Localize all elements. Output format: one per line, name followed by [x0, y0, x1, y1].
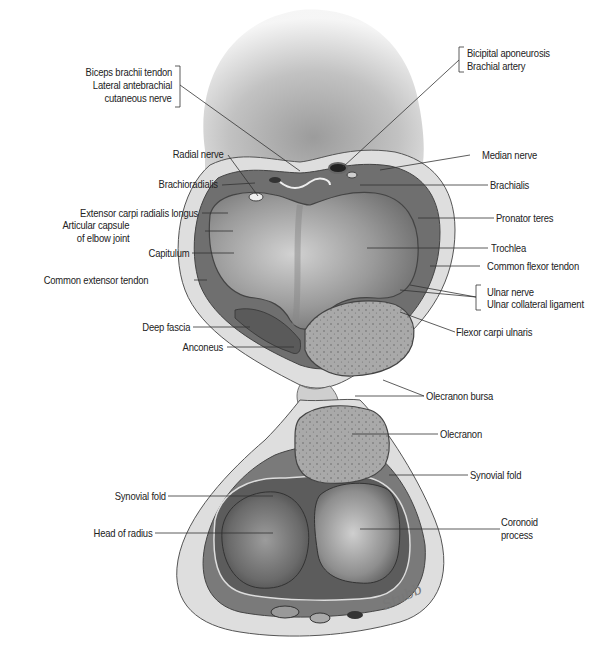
label-brachioradialis: Brachioradialis — [159, 178, 218, 190]
label-common-flexor-tendon: Common flexor tendon — [487, 260, 579, 272]
coronoid-process — [315, 483, 400, 583]
label-ulnar-nerve: Ulnar nerve — [487, 286, 534, 298]
label-pronator-teres: Pronator teres — [496, 212, 553, 224]
label-radial-nerve: Radial nerve — [173, 148, 224, 160]
label-synovial-fold-right: Synovial fold — [470, 469, 521, 481]
label-lateral-antebrachial: Lateral antebrachial — [93, 79, 172, 91]
label-olecranon: Olecranon — [440, 428, 482, 440]
label-bicipital-aponeurosis: Bicipital aponeurosis — [467, 47, 550, 59]
label-flexor-carpi-ulnaris: Flexor carpi ulnaris — [456, 326, 532, 338]
label-synovial-fold-left: Synovial fold — [115, 490, 166, 502]
label-median-nerve: Median nerve — [482, 149, 537, 161]
label-articular-capsule: Articular capsule — [62, 219, 129, 231]
label-deep-fascia: Deep fascia — [142, 321, 190, 333]
label-coronoid: Coronoid — [501, 516, 538, 528]
label-common-extensor-tendon: Common extensor tendon — [43, 274, 148, 286]
label-process: process — [501, 529, 533, 541]
elbow-cross-section-diagram: Stubb Biceps brachii tendon — [0, 0, 595, 652]
label-head-of-radius: Head of radius — [93, 527, 152, 539]
label-ulnar-collateral-ligament: Ulnar collateral ligament — [487, 298, 584, 310]
olecranon-bone — [295, 406, 389, 484]
label-biceps-brachii-tendon: Biceps brachii tendon — [85, 66, 172, 78]
label-anconeus: Anconeus — [182, 341, 223, 353]
label-trochlea: Trochlea — [491, 242, 526, 254]
label-of-elbow-joint: of elbow joint — [76, 232, 129, 244]
label-olecranon-bursa: Olecranon bursa — [426, 390, 493, 402]
label-cutaneous-nerve: cutaneous nerve — [105, 92, 172, 104]
label-capitulum: Capitulum — [148, 247, 189, 259]
label-extensor-carpi-radialis-longus: Extensor carpi radialis longus — [80, 207, 198, 219]
label-brachial-artery: Brachial artery — [467, 60, 525, 72]
head-of-radius — [222, 492, 309, 588]
label-brachialis: Brachialis — [490, 179, 529, 191]
